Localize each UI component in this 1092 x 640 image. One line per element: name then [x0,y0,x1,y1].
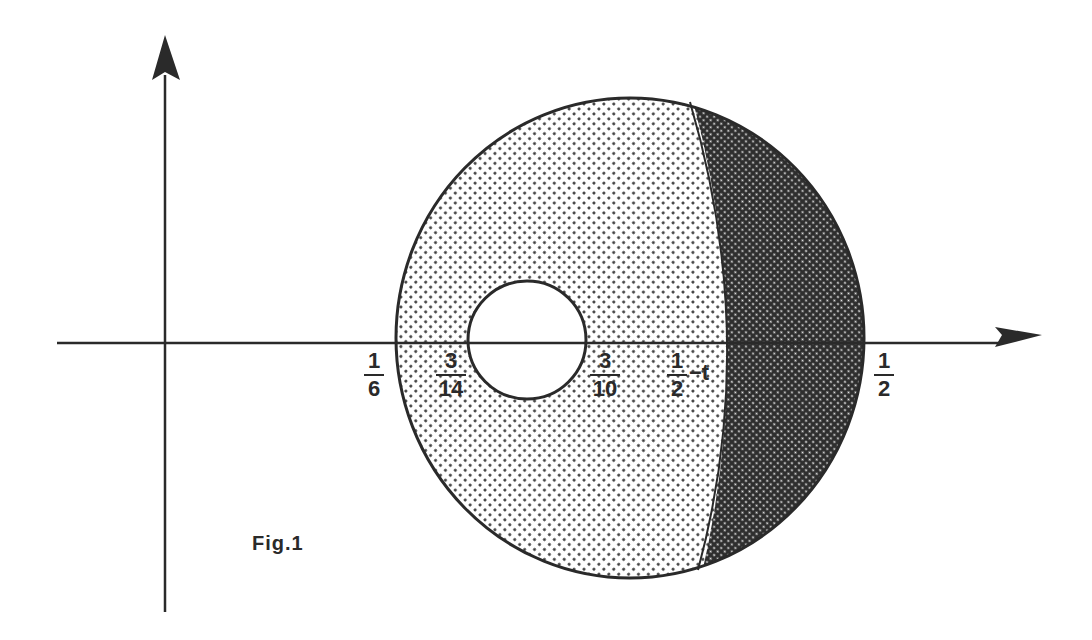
inner-hole [468,281,586,399]
label-denominator: 10 [590,378,620,400]
label-half-minus-t: 1 2 −t [667,350,687,400]
label-one-half: 1 2 [874,350,894,400]
label-three-tenths: 3 10 [590,350,620,400]
figure-caption: Fig.1 [252,532,304,555]
label-numerator: 1 [874,350,894,372]
figure-diagram [0,0,1092,640]
label-numerator: 3 [590,350,620,372]
label-numerator: 1 [364,350,384,372]
x-axis-arrowhead-icon [995,327,1042,347]
label-denominator: 2 [667,378,687,400]
label-denominator: 2 [874,378,894,400]
y-axis-arrowhead-icon [152,35,180,80]
label-numerator: 1 [667,350,687,372]
label-numerator: 3 [436,350,466,372]
label-denominator: 6 [364,378,384,400]
label-suffix: −t [689,362,709,384]
label-denominator: 14 [436,378,466,400]
label-three-fourteenths: 3 14 [436,350,466,400]
label-one-sixth: 1 6 [364,350,384,400]
